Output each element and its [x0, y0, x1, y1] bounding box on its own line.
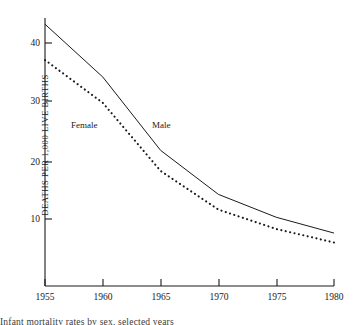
chart-plot-area: [0, 0, 359, 325]
x-tick-label-1955: 1955: [25, 292, 65, 303]
series-line-female: [45, 60, 334, 242]
clipped-caption-text: Infant mortality rates by sex, selected …: [0, 316, 359, 325]
infant-mortality-line-chart: DEATHS PER 1,000 LIVE BIRTHS 40 30 20 10…: [0, 0, 359, 325]
x-axis-ticks: [45, 279, 334, 286]
x-tick-label-1965: 1965: [141, 292, 181, 303]
x-tick-label-1980: 1980: [314, 292, 354, 303]
series-annotation-male: Male: [152, 120, 171, 130]
y-tick-label-40: 40: [18, 38, 40, 48]
y-tick-label-30: 30: [18, 96, 40, 106]
x-tick-label-1970: 1970: [199, 292, 239, 303]
y-axis-title: DEATHS PER 1,000 LIVE BIRTHS: [40, 20, 50, 270]
y-tick-label-10: 10: [18, 214, 40, 224]
y-tick-label-20: 20: [18, 157, 40, 167]
series-annotation-female: Female: [71, 120, 98, 130]
x-tick-label-1960: 1960: [83, 292, 123, 303]
series-group: [45, 24, 334, 242]
x-tick-label-1975: 1975: [257, 292, 297, 303]
